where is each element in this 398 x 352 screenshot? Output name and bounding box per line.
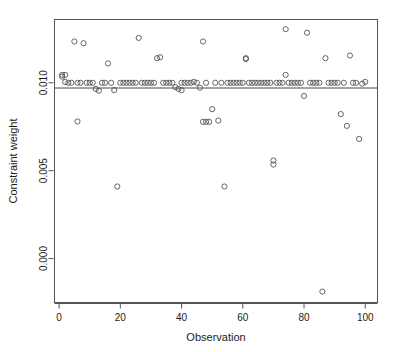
x-axis-tick-label: 20 <box>115 312 127 323</box>
chart-background <box>0 0 398 352</box>
x-axis-tick-label: 0 <box>56 312 62 323</box>
x-axis-tick-label: 100 <box>357 312 374 323</box>
y-axis-title: Constraint weight <box>7 119 19 204</box>
chart-canvas: 020406080100 0.0000.0050.010 Observation… <box>0 0 398 352</box>
x-axis-tick-label: 40 <box>176 312 188 323</box>
y-axis-tick-label: 0.005 <box>38 158 49 183</box>
x-axis-tick-label: 60 <box>237 312 249 323</box>
scatter-plot-figure: 020406080100 0.0000.0050.010 Observation… <box>0 0 398 352</box>
x-axis-title: Observation <box>186 331 245 343</box>
y-axis-tick-label: 0.010 <box>38 70 49 95</box>
y-axis-tick-label: 0.000 <box>38 246 49 271</box>
x-axis-tick-label: 80 <box>298 312 310 323</box>
